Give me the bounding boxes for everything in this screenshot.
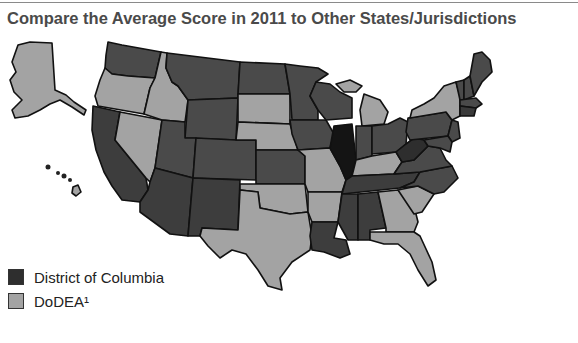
- legend-label-dodea: DoDEA¹: [34, 293, 89, 310]
- state-AR[interactable]: [308, 192, 342, 222]
- state-WY[interactable]: [185, 98, 238, 140]
- state-HI-island: [68, 178, 72, 182]
- state-HI-island: [56, 171, 60, 175]
- state-FL[interactable]: [370, 232, 436, 286]
- legend: District of Columbia DoDEA¹: [8, 265, 164, 313]
- legend-item-dodea: DoDEA¹: [8, 289, 164, 313]
- state-NM[interactable]: [188, 178, 240, 236]
- state-WA[interactable]: [105, 42, 161, 78]
- state-CT[interactable]: [460, 106, 476, 116]
- state-ND[interactable]: [238, 62, 290, 94]
- state-CO[interactable]: [193, 138, 256, 180]
- legend-item-dc: District of Columbia: [8, 265, 164, 289]
- state-ME[interactable]: [470, 52, 492, 96]
- legend-label-dc: District of Columbia: [34, 269, 164, 286]
- state-HI[interactable]: [72, 185, 81, 196]
- legend-swatch-dark: [8, 269, 24, 285]
- state-AK[interactable]: [10, 42, 86, 118]
- legend-swatch-light: [8, 293, 24, 309]
- state-KS[interactable]: [256, 150, 305, 184]
- state-MI-upper[interactable]: [336, 80, 362, 92]
- state-MS[interactable]: [338, 194, 358, 240]
- state-HI-island: [62, 174, 67, 179]
- state-SD[interactable]: [238, 94, 290, 124]
- state-NY[interactable]: [410, 82, 460, 120]
- state-IA[interactable]: [290, 120, 334, 150]
- state-MI[interactable]: [360, 94, 388, 126]
- state-IN[interactable]: [356, 126, 372, 160]
- state-HI-island: [46, 165, 51, 170]
